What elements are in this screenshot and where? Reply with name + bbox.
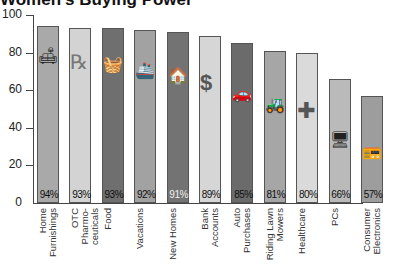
- bar-value-label: 85%: [228, 189, 258, 200]
- lawn-mower-icon: 🚜: [265, 97, 285, 113]
- y-tick-label: 60: [0, 82, 22, 96]
- x-label-line2: Purchases: [242, 208, 252, 265]
- pills-rx-icon: ℞: [70, 54, 88, 70]
- bar: 80%: [296, 53, 318, 203]
- x-tick-label: Riding LawnMowers: [265, 208, 295, 265]
- computer-icon: 🖥: [330, 132, 350, 148]
- y-tick-label: 100: [0, 7, 22, 21]
- bar-value-label: 91%: [164, 189, 194, 200]
- x-tick-label: BankAccounts: [200, 208, 230, 265]
- dollar-sign-icon: $: [200, 75, 212, 91]
- bar-value-label: 94%: [34, 189, 64, 200]
- x-label-line1: OTC Pharmo-: [70, 208, 90, 265]
- bar: 93%: [102, 28, 124, 203]
- y-tick: [26, 90, 34, 91]
- bar: 85%: [231, 43, 253, 203]
- bar-value-label: 89%: [196, 189, 226, 200]
- bar-value-label: 93%: [99, 189, 129, 200]
- bar: 89%: [199, 36, 221, 203]
- bar: 92%: [134, 30, 156, 203]
- x-label-line2: Mowers: [275, 208, 285, 265]
- x-tick-label: Food: [103, 208, 133, 265]
- chart-title: Women's Buying Power: [0, 0, 193, 10]
- x-label-line1: Vacations: [135, 208, 145, 265]
- bar-value-label: 57%: [358, 189, 388, 200]
- bar-value-label: 92%: [131, 189, 161, 200]
- food-basket-icon: 🧺: [103, 57, 123, 73]
- x-label-line1: New Homes: [168, 208, 178, 265]
- x-label-line1: PCs: [330, 208, 340, 265]
- bar-value-label: 66%: [326, 189, 356, 200]
- y-tick-label: 80: [0, 45, 22, 59]
- bar-value-label: 93%: [66, 189, 96, 200]
- x-tick-label: Vacations: [135, 208, 165, 265]
- x-tick-label: PCs: [330, 208, 360, 265]
- x-tick-label: OTC Pharmo-ceuticals: [70, 208, 100, 265]
- x-label-line2: Electronics: [372, 208, 382, 265]
- y-tick-label: 0: [0, 195, 22, 209]
- cruise-ship-icon: 🚢: [135, 63, 155, 79]
- y-tick: [26, 53, 34, 54]
- x-label-line1: Food: [103, 208, 113, 265]
- bar-value-label: 80%: [293, 189, 323, 200]
- x-axis: [33, 203, 363, 204]
- y-tick-label: 40: [0, 120, 22, 134]
- y-tick-label: 20: [0, 157, 22, 171]
- x-tick-label: New Homes: [168, 208, 198, 265]
- x-tick-label: ConsumerElectronics: [362, 208, 392, 265]
- x-label-line1: Healthcare: [297, 208, 307, 265]
- medical-cross-icon: ✚: [297, 103, 315, 119]
- x-label-line2: Accounts: [210, 208, 220, 265]
- x-tick-label: HomeFurnishings: [38, 208, 68, 265]
- y-tick: [26, 128, 34, 129]
- y-tick: [26, 165, 34, 166]
- x-tick-label: AutoPurchases: [232, 208, 262, 265]
- bar: 91%: [167, 32, 189, 203]
- boombox-icon: 📻: [362, 143, 382, 159]
- house-icon: 🏠: [168, 68, 188, 84]
- bar: 81%: [264, 51, 286, 203]
- y-axis: [33, 15, 34, 203]
- x-label-line2: Furnishings: [48, 208, 58, 265]
- x-tick-label: Healthcare: [297, 208, 327, 265]
- x-label-line2: ceuticals: [90, 208, 100, 265]
- car-icon: 🚗: [232, 86, 252, 102]
- y-tick: [26, 15, 34, 16]
- armchair-lamp-icon: 🛋: [38, 48, 58, 64]
- bar-value-label: 81%: [261, 189, 291, 200]
